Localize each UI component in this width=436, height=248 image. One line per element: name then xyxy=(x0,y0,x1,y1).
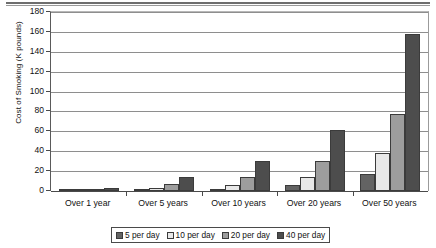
bar-group xyxy=(202,12,277,191)
x-axis-tick-label: Over 20 years xyxy=(276,198,351,208)
legend-label: 40 per day xyxy=(286,230,325,240)
x-axis-tick-label: Over 1 year xyxy=(50,198,125,208)
y-axis-tick-label: 120 xyxy=(30,67,44,76)
y-axis-tick-label: 20 xyxy=(35,166,44,175)
legend-item[interactable]: 20 per day xyxy=(222,230,270,240)
legend-item[interactable]: 5 per day xyxy=(116,230,160,240)
top-title-rule-secondary xyxy=(6,5,430,6)
y-axis-tick-label: 60 xyxy=(35,126,44,135)
y-axis-tick-label: 140 xyxy=(30,47,44,56)
bar[interactable] xyxy=(179,177,194,191)
plot-area xyxy=(50,11,429,191)
x-axis-tick-label: Over 50 years xyxy=(352,198,427,208)
bar-group xyxy=(277,12,352,191)
bar[interactable] xyxy=(300,177,315,191)
y-axis-tick-label: 40 xyxy=(35,146,44,155)
bar[interactable] xyxy=(375,153,390,191)
bar[interactable] xyxy=(360,174,375,191)
y-axis-tick-label: 0 xyxy=(39,186,44,195)
bar[interactable] xyxy=(164,184,179,191)
y-axis-title: Cost of Smoking (K pounds) xyxy=(14,0,23,153)
bar[interactable] xyxy=(255,161,270,191)
bar[interactable] xyxy=(390,114,405,191)
legend-swatch-icon xyxy=(116,232,123,239)
legend-label: 10 per day xyxy=(176,230,215,240)
bar[interactable] xyxy=(240,177,255,191)
bar-groups xyxy=(51,12,428,191)
y-axis-tick-label: 80 xyxy=(35,106,44,115)
x-axis-baseline xyxy=(51,191,428,192)
legend-label: 5 per day xyxy=(125,230,160,240)
chart-legend: 5 per day10 per day20 per day40 per day xyxy=(111,227,330,243)
x-axis-tick-labels: Over 1 yearOver 5 yearsOver 10 yearsOver… xyxy=(50,198,427,208)
legend-item[interactable]: 40 per day xyxy=(277,230,325,240)
bar[interactable] xyxy=(315,161,330,191)
y-axis-tick-label: 100 xyxy=(30,87,44,96)
y-axis-tick-label: 160 xyxy=(30,27,44,36)
bar-group xyxy=(51,12,126,191)
legend-label: 20 per day xyxy=(231,230,270,240)
x-axis-tick-label: Over 10 years xyxy=(201,198,276,208)
legend-item[interactable]: 10 per day xyxy=(167,230,215,240)
bar[interactable] xyxy=(405,34,420,191)
bar-group xyxy=(353,12,428,191)
x-axis-tick-label: Over 5 years xyxy=(125,198,200,208)
bar-group xyxy=(126,12,201,191)
bar[interactable] xyxy=(330,130,345,191)
legend-swatch-icon xyxy=(167,232,174,239)
legend-swatch-icon xyxy=(277,232,284,239)
y-axis-tick-label: 180 xyxy=(30,7,44,16)
legend-swatch-icon xyxy=(222,232,229,239)
top-title-rule xyxy=(6,2,430,4)
bar-chart: Cost of Smoking (K pounds) 0204060801001… xyxy=(0,0,436,248)
